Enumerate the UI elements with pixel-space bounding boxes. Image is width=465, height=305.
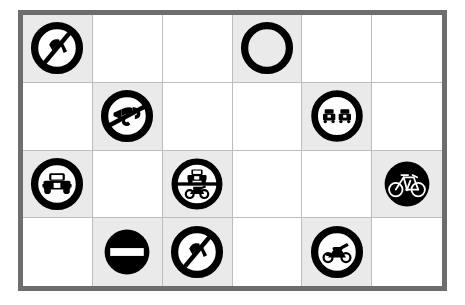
no-overtaking-icon: [309, 88, 365, 144]
grid-cell-r1-c2[interactable]: [93, 15, 163, 83]
grid-cell-r3-c2[interactable]: [93, 151, 163, 219]
grid-cell-r2-c3[interactable]: [163, 83, 233, 151]
grid-cell-r4-c3[interactable]: [163, 218, 233, 286]
no-motorcycles-icon: [309, 224, 365, 280]
grid-cell-r4-c4[interactable]: [233, 218, 303, 286]
no-motor-vehicles-icon: [169, 156, 225, 212]
grid-cell-r2-c5[interactable]: [302, 83, 372, 151]
grid-cell-r3-c6[interactable]: [372, 151, 442, 219]
grid-cell-r2-c4[interactable]: [233, 83, 303, 151]
grid-cell-r3-c3[interactable]: [163, 151, 233, 219]
no-horn-slash-icon: [169, 224, 225, 280]
no-horn-icon: [99, 88, 155, 144]
grid-cell-r3-c4[interactable]: [233, 151, 303, 219]
bicycle-inverted-icon: [379, 156, 435, 212]
grid-cell-r4-c5[interactable]: [302, 218, 372, 286]
grid-cell-r2-c2[interactable]: [93, 83, 163, 151]
grid-cell-r4-c6[interactable]: [372, 218, 442, 286]
grid-cell-r2-c1[interactable]: [23, 83, 93, 151]
grid-cell-r4-c2[interactable]: [93, 218, 163, 286]
grid-cell-r3-c1[interactable]: [23, 151, 93, 219]
no-cars-icon: [29, 156, 85, 212]
sign-grid: [23, 15, 442, 286]
grid-cell-r1-c5[interactable]: [302, 15, 372, 83]
grid-cell-r4-c1[interactable]: [23, 218, 93, 286]
blank-prohibition-ring-icon: [239, 20, 295, 76]
grid-cell-r1-c4[interactable]: [233, 15, 303, 83]
grid-cell-r1-c1[interactable]: [23, 15, 93, 83]
grid-cell-r2-c6[interactable]: [372, 83, 442, 151]
no-entry-icon: [99, 224, 155, 280]
grid-cell-r1-c6[interactable]: [372, 15, 442, 83]
grid-cell-r1-c3[interactable]: [163, 15, 233, 83]
no-horn-slash-icon: [29, 20, 85, 76]
grid-cell-r3-c5[interactable]: [302, 151, 372, 219]
sign-board-frame: [18, 10, 447, 291]
